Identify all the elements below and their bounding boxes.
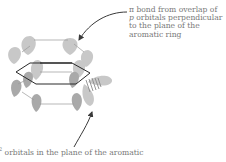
bottom-arrow bbox=[74, 112, 92, 147]
top-arrow bbox=[79, 12, 127, 40]
sp2-annotation: 2 orbitals in the plane of the aromatic bbox=[0, 149, 143, 157]
benzene-orbital-diagram: π bond from overlap of p orbitals perpen… bbox=[0, 0, 226, 162]
pi-bond-annotation: π bond from overlap of p orbitals perpen… bbox=[129, 6, 222, 39]
sp2-orbital-lobes bbox=[82, 76, 112, 106]
upper-p-lobes bbox=[8, 36, 93, 80]
lower-p-lobes bbox=[11, 72, 82, 112]
